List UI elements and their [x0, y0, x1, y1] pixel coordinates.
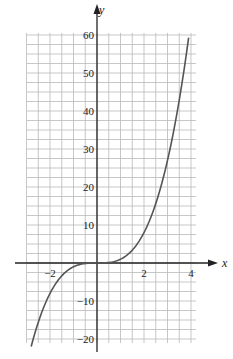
axes [15, 4, 218, 352]
y-axis-label: y [98, 3, 105, 17]
y-tick-label: 20 [83, 181, 95, 193]
y-tick-label: 40 [83, 105, 95, 117]
x-tick-label: 4 [188, 267, 194, 279]
chart: −224605040302010−10−20 x y [0, 0, 233, 359]
y-tick-label: 60 [83, 29, 95, 41]
y-tick-label: −10 [77, 295, 95, 307]
y-tick-label: 10 [83, 219, 95, 231]
y-tick-label: −20 [77, 333, 95, 345]
x-tick-label: −2 [44, 267, 56, 279]
x-tick-label: 2 [141, 267, 147, 279]
y-tick-label: 50 [83, 67, 95, 79]
grid [27, 33, 197, 343]
function-curve [31, 38, 188, 347]
y-tick-label: 30 [83, 143, 95, 155]
x-axis-label: x [221, 256, 228, 270]
